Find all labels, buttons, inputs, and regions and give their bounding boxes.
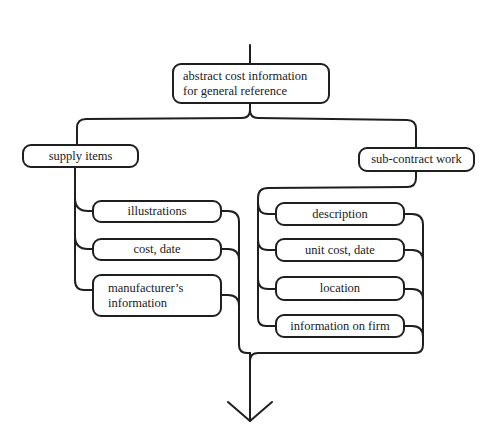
description-label: description (312, 207, 368, 222)
manufacturers-label-line2: information (108, 296, 167, 311)
unit-cost-date-label: unit cost, date (305, 243, 375, 258)
sub-branch-3 (258, 279, 275, 289)
illustrations-label: illustrations (127, 204, 186, 219)
cost-date-label: cost, date (133, 242, 180, 257)
sub-collect-4 (405, 326, 423, 337)
root-split-right (250, 110, 416, 148)
supply-collect-2 (222, 249, 239, 260)
cost-date-node: cost, date (92, 238, 222, 261)
description-node: description (275, 202, 405, 226)
information-on-firm-node: information on firm (275, 314, 405, 338)
supply-trunk (75, 167, 92, 290)
manufacturers-information-node: manufacturer’s information (92, 274, 222, 317)
supply-branch-2 (75, 236, 92, 249)
supply-items-label: supply items (49, 149, 113, 164)
root-label-line1: abstract cost information (183, 69, 307, 84)
subcontract-work-label: sub-contract work (371, 152, 462, 167)
supply-collect-3 (222, 295, 239, 306)
location-node: location (275, 276, 405, 301)
illustrations-node: illustrations (92, 200, 222, 223)
information-on-firm-label: information on firm (290, 319, 389, 334)
unit-cost-date-node: unit cost, date (275, 238, 405, 262)
sub-collect-2 (405, 250, 423, 261)
manufacturers-label-line1: manufacturer’s (108, 281, 183, 296)
supply-branch-1 (75, 198, 92, 211)
root-split-left (77, 103, 250, 145)
location-label: location (320, 281, 360, 296)
sub-branch-2 (258, 240, 275, 250)
sub-branch-1 (258, 203, 275, 214)
root-label-line2: for general reference (183, 84, 287, 99)
supply-collect-1 (222, 211, 239, 222)
sub-collect-3 (405, 289, 423, 300)
supply-items-node: supply items (22, 144, 139, 168)
subcontract-work-node: sub-contract work (358, 147, 475, 172)
supply-collector (239, 222, 250, 353)
sub-collect-1 (405, 214, 423, 225)
root-node: abstract cost information for general re… (172, 63, 330, 104)
